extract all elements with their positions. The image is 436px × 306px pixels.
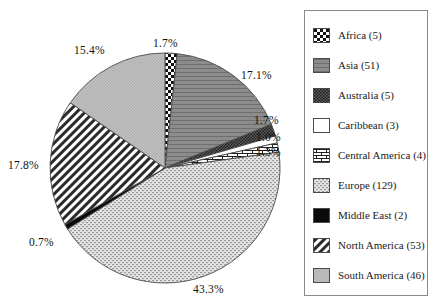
pie-slice-group [50,53,280,283]
legend-swatch-icon [313,88,330,103]
legend-item-africa[interactable]: Africa (5) [305,20,427,50]
legend-item-asia[interactable]: Asia (51) [305,50,427,80]
legend-item-north-america[interactable]: North America (53) [305,230,427,260]
pie-value-label-africa: 1.7% [153,38,178,50]
pie-value-label-north-america: 17.8% [8,160,39,172]
pie-chart-svg [0,0,300,306]
legend-item-label: Australia (5) [338,90,394,101]
pie-chart-figure: 1.7%17.1%1.7%1.0%1.3%43.3%0.7%17.8%15.4%… [0,0,436,306]
legend-swatch-icon [313,118,330,133]
legend-item-label: North America (53) [338,240,425,251]
pie-value-label-europe: 43.3% [193,284,224,296]
legend-swatch-icon [313,178,330,193]
legend-item-middle-east[interactable]: Middle East (2) [305,200,427,230]
legend-item-label: Central America (4) [338,150,426,161]
pie-chart-area: 1.7%17.1%1.7%1.0%1.3%43.3%0.7%17.8%15.4% [0,0,300,306]
legend-swatch-icon [313,28,330,43]
legend-swatch-icon [313,268,330,283]
legend-item-label: Middle East (2) [338,210,407,221]
legend-item-central-america[interactable]: Central America (4) [305,140,427,170]
legend-item-south-america[interactable]: South America (46) [305,260,427,290]
legend-item-label: Caribbean (3) [338,120,399,131]
legend-item-caribbean[interactable]: Caribbean (3) [305,110,427,140]
legend-item-label: South America (46) [338,270,425,281]
legend-swatch-icon [313,208,330,223]
pie-value-label-central-america: 1.3% [256,147,281,159]
pie-value-label-caribbean: 1.0% [256,132,281,144]
pie-value-label-australia: 1.7% [254,115,279,127]
legend-item-europe[interactable]: Europe (129) [305,170,427,200]
legend-swatch-icon [313,238,330,253]
legend-item-australia[interactable]: Australia (5) [305,80,427,110]
legend-item-label: Asia (51) [338,60,379,71]
chart-legend: Africa (5)Asia (51)Australia (5)Caribbea… [304,10,428,296]
pie-value-label-south-america: 15.4% [74,45,105,57]
legend-item-label: Africa (5) [338,30,382,41]
pie-value-label-asia: 17.1% [241,70,272,82]
pie-value-label-middle-east: 0.7% [29,237,54,249]
legend-swatch-icon [313,148,330,163]
legend-item-label: Europe (129) [338,180,396,191]
legend-swatch-icon [313,58,330,73]
